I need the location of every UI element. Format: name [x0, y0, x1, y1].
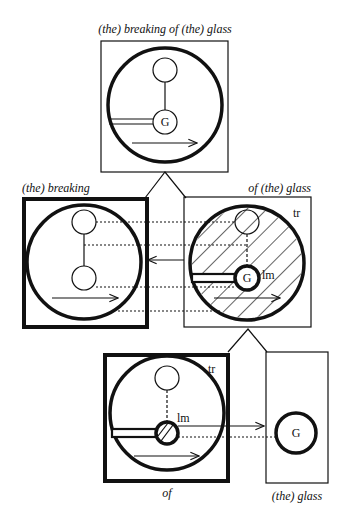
panel-right: G lm tr — [184, 197, 311, 327]
panel-of: lm tr — [105, 355, 228, 481]
trajector-label: tr — [293, 206, 300, 220]
panel-top: G — [101, 41, 228, 172]
svg-text:G: G — [292, 426, 301, 440]
trajector-label: tr — [208, 362, 215, 376]
svg-text:G: G — [243, 271, 252, 285]
panel-left — [24, 199, 147, 327]
landmark-label: lm — [177, 411, 190, 425]
composition-branch — [145, 172, 186, 198]
construal-diagram: (the) breaking of (the) glass G (the) br… — [0, 0, 349, 518]
composition-branch — [228, 329, 267, 352]
label-right: of (the) glass — [248, 181, 311, 195]
label-top: (the) breaking of (the) glass — [98, 22, 232, 36]
landmark-label: lm — [262, 268, 275, 282]
panel-glass: G — [266, 352, 328, 483]
svg-text:G: G — [161, 115, 170, 129]
label-bottom-left: of — [162, 486, 173, 500]
label-left: (the) breaking — [22, 181, 90, 195]
label-bottom-right: (the) glass — [272, 489, 323, 503]
